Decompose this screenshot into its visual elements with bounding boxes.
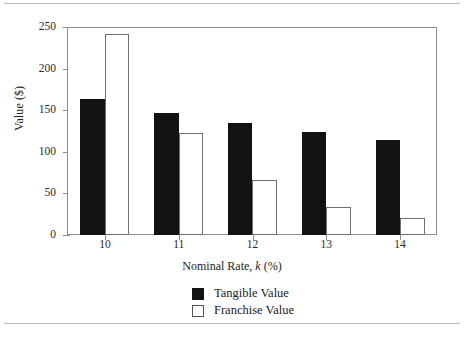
y-tick-label: 50 [45,188,57,200]
bar-tangible-10 [80,99,105,235]
bars-layer [68,27,437,235]
bar-group [289,27,363,235]
legend-label-tangible: Tangible Value [214,287,289,300]
x-tick-label: 14 [380,239,420,251]
bar-franchise-12 [252,180,277,235]
y-tick-label: 0 [50,229,56,241]
legend-item-franchise: Franchise Value [192,302,392,319]
bar-group [142,27,216,235]
bar-franchise-14 [400,218,425,235]
y-tick-label: 200 [39,63,56,75]
legend-item-tangible: Tangible Value [192,285,392,302]
bar-tangible-13 [302,132,327,235]
outline-square-icon [192,305,204,317]
bar-franchise-13 [326,207,351,235]
x-tick-label: 13 [306,239,346,251]
bar-tangible-11 [154,113,179,235]
figure-page: 050100150200250 Value ($) Nominal Rate, … [0,0,464,340]
x-tick-label: 12 [233,239,273,251]
chart-legend: Tangible Value Franchise Value [192,285,392,319]
x-axis-title-suffix: (%) [261,259,282,273]
filled-square-icon [192,288,204,300]
y-axis-title: Value ($) [12,86,27,131]
x-axis-title: Nominal Rate, k (%) [0,259,464,274]
bar-franchise-11 [179,133,204,235]
x-tick-label: 10 [85,239,125,251]
bar-chart-figure: 050100150200250 Value ($) Nominal Rate, … [0,8,464,320]
y-tick-label: 250 [39,21,56,33]
y-tick-mark [63,235,70,236]
bar-tangible-14 [376,140,401,235]
y-tick-label: 150 [39,104,56,116]
y-tick-label: 100 [39,146,56,158]
page-rule-bottom [4,323,460,324]
page-rule-top [4,3,460,4]
bar-tangible-12 [228,123,253,235]
bar-group [216,27,290,235]
bar-franchise-10 [105,34,130,235]
legend-label-franchise: Franchise Value [214,304,294,317]
bar-group [363,27,437,235]
x-axis-title-prefix: Nominal Rate, [182,259,255,273]
x-tick-label: 11 [159,239,199,251]
bar-group [68,27,142,235]
